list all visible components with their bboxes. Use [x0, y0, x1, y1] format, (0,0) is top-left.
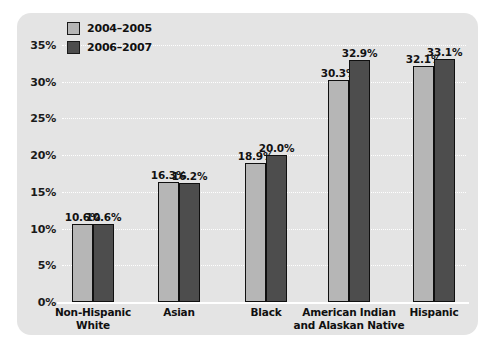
y-tick-label: 25%	[10, 112, 56, 125]
bar[interactable]: 16.3%	[158, 182, 179, 302]
grouped-bar-chart: 35%30%25%20%15%10%5%0% 10.6%10.6%16.3%16…	[0, 0, 498, 349]
dark-gray-swatch	[67, 41, 80, 54]
gridline-25	[62, 118, 466, 120]
x-axis-baseline	[57, 302, 469, 304]
y-tick-label: 30%	[10, 75, 56, 88]
x-category-label-line: Hispanic	[374, 306, 494, 319]
y-tick-label: 20%	[10, 149, 56, 162]
bar[interactable]: 32.9%	[349, 60, 370, 302]
x-category-label: Hispanic	[374, 306, 494, 319]
x-category-label-line: and Alaskan Native	[289, 319, 409, 332]
bar-data-label: 33.1%	[427, 46, 462, 58]
y-axis-tick-labels: 35%30%25%20%15%10%5%0%	[8, 45, 56, 302]
x-category-label-line: White	[33, 319, 153, 332]
bar[interactable]: 10.6%	[72, 224, 93, 302]
bar[interactable]: 18.9%	[245, 163, 266, 302]
gridline-30	[62, 82, 466, 84]
legend-item-label: 2004–2005	[87, 22, 152, 35]
legend-item[interactable]: 2006–2007	[67, 38, 152, 57]
bar[interactable]: 33.1%	[434, 59, 455, 302]
bar[interactable]: 32.1%	[413, 66, 434, 302]
bar-group: 16.3%16.2%	[158, 182, 200, 302]
bar[interactable]: 10.6%	[93, 224, 114, 302]
bar-group: 18.9%20.0%	[245, 155, 287, 302]
bar-data-label: 10.6%	[86, 211, 121, 223]
legend-item-label: 2006–2007	[87, 41, 152, 54]
legend-item[interactable]: 2004–2005	[67, 19, 152, 38]
y-tick-label: 5%	[10, 259, 56, 272]
bar-data-label: 16.2%	[172, 170, 207, 182]
y-tick-label: 35%	[10, 39, 56, 52]
bar-data-label: 32.9%	[342, 47, 377, 59]
y-tick-label: 15%	[10, 185, 56, 198]
bar-group: 10.6%10.6%	[72, 224, 114, 302]
bar[interactable]: 30.3%	[328, 80, 349, 302]
bar[interactable]: 20.0%	[266, 155, 287, 302]
light-gray-swatch	[67, 22, 80, 35]
bar[interactable]: 16.2%	[179, 183, 200, 302]
bar-data-label: 20.0%	[259, 142, 294, 154]
bar-group: 30.3%32.9%	[328, 60, 370, 302]
y-tick-label: 10%	[10, 222, 56, 235]
bar-group: 32.1%33.1%	[413, 59, 455, 302]
chart-legend: 2004–20052006–2007	[67, 19, 152, 57]
plot-area: 10.6%10.6%16.3%16.2%18.9%20.0%30.3%32.9%…	[62, 45, 466, 302]
